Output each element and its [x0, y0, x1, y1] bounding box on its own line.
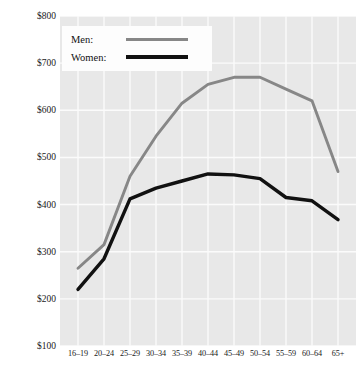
y-axis-tick-label: $300: [37, 247, 56, 257]
y-axis-tick-label: $500: [37, 152, 56, 162]
x-axis-tick-labels: 16–1920–2425–2930–3435–3940–4445–4950–54…: [0, 349, 364, 369]
x-axis-tick-label: 25–29: [120, 349, 140, 358]
x-axis-tick-label: 60–64: [302, 349, 322, 358]
x-axis-tick-label: 45–49: [224, 349, 244, 358]
y-axis-tick-label: $600: [37, 105, 56, 115]
legend-item-men: Men:: [71, 31, 188, 47]
legend-swatch-men-icon: [126, 38, 188, 41]
x-axis-tick-label: 55–59: [276, 349, 296, 358]
x-axis-tick-label: 65+: [332, 349, 345, 358]
legend: Men: Women:: [62, 26, 212, 71]
y-axis-tick-labels: $100$200$300$400$500$600$700$800: [0, 0, 56, 383]
chart-container: Median weekly earnings, 1995 $100$200$30…: [0, 0, 364, 383]
x-axis-tick-label: 16–19: [68, 349, 88, 358]
y-axis-tick-label: $400: [37, 200, 56, 210]
legend-label-women: Women:: [71, 52, 124, 63]
y-axis-tick-label: $800: [37, 11, 56, 21]
y-axis-tick-label: $700: [37, 58, 56, 68]
x-axis-tick-label: 20–24: [94, 349, 114, 358]
legend-swatch-women-icon: [126, 55, 188, 59]
y-axis-tick-label: $200: [37, 294, 56, 304]
x-axis-tick-label: 35–39: [172, 349, 192, 358]
legend-item-women: Women:: [71, 49, 188, 65]
x-axis-tick-label: 50–54: [250, 349, 270, 358]
x-axis-tick-label: 30–34: [146, 349, 166, 358]
legend-label-men: Men:: [71, 34, 124, 45]
x-axis-tick-label: 40–44: [198, 349, 218, 358]
